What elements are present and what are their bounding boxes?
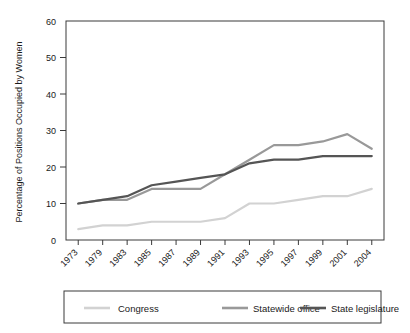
x-tick-label: 1979: [83, 247, 104, 268]
legend-label-0: Congress: [118, 303, 159, 314]
x-tick-label: 1987: [156, 247, 177, 268]
data-series-group: [78, 134, 372, 229]
x-axis-ticks: [78, 240, 372, 245]
chart-container: Percentage of Positions Occupied by Wome…: [0, 0, 410, 333]
y-tick-label: 40: [46, 90, 56, 100]
y-axis-title: Percentage of Positions Occupied by Wome…: [14, 42, 24, 223]
x-tick-label: 1995: [254, 247, 275, 268]
legend-label-2: State legislature: [331, 303, 399, 314]
y-tick-label: 30: [46, 126, 56, 136]
y-tick-label: 10: [46, 199, 56, 209]
x-tick-label: 1999: [303, 247, 324, 268]
x-tick-label: 2004: [352, 247, 373, 268]
x-tick-label: 1989: [181, 247, 202, 268]
x-tick-label: 1997: [279, 247, 300, 268]
line-chart-svg: Percentage of Positions Occupied by Wome…: [0, 0, 410, 333]
x-tick-label: 1985: [132, 247, 153, 268]
x-tick-label: 1973: [58, 247, 79, 268]
y-axis-ticks: 0102030405060: [46, 17, 66, 246]
plot-frame: [66, 21, 384, 240]
legend: CongressStatewide officeState legislatur…: [84, 303, 399, 314]
y-tick-label: 0: [51, 236, 56, 246]
series-line-0: [78, 189, 372, 229]
y-tick-label: 60: [46, 17, 56, 27]
series-line-1: [78, 134, 372, 203]
x-tick-label: 1991: [205, 247, 226, 268]
y-tick-label: 50: [46, 53, 56, 63]
y-tick-label: 20: [46, 163, 56, 173]
x-tick-label: 1993: [230, 247, 251, 268]
x-tick-label: 2001: [327, 247, 348, 268]
x-tick-label: 1983: [107, 247, 128, 268]
y-axis-title-text: Percentage of Positions Occupied by Wome…: [14, 42, 24, 223]
x-axis-labels: 1973197919831985198719891991199319951997…: [58, 247, 373, 268]
